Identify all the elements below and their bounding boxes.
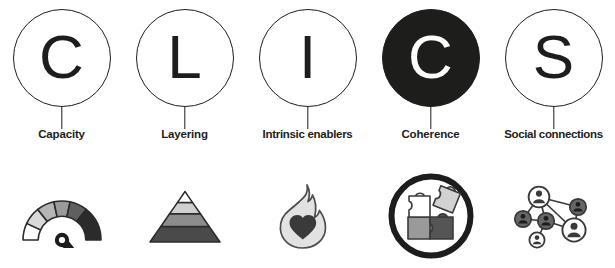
connector-line xyxy=(307,107,308,129)
clics-framework-diagram: C Capacity xyxy=(0,0,615,268)
caption-social-connections: Social connections xyxy=(492,128,615,140)
caption-capacity: Capacity xyxy=(0,128,123,140)
letter-badge-l: L xyxy=(136,9,234,107)
flame-heart-icon xyxy=(258,170,358,262)
letter-glyph: I xyxy=(299,26,316,88)
clics-column-social-connections: S Social connections xyxy=(492,0,615,268)
person-node xyxy=(569,199,585,215)
connector-line xyxy=(553,107,554,129)
letter-glyph: L xyxy=(167,26,201,88)
clics-column-intrinsic-enablers: I Intrinsic enablers xyxy=(246,0,369,268)
network-people-icon xyxy=(504,170,604,262)
pyramid-icon xyxy=(135,170,235,262)
letter-badge-c2: C xyxy=(382,9,480,107)
person-node xyxy=(562,218,585,241)
puzzle-pieces-icon xyxy=(381,170,481,262)
letter-badge-c1: C xyxy=(13,9,111,107)
caption-layering: Layering xyxy=(123,128,246,140)
letter-glyph: C xyxy=(39,26,84,88)
connector-line xyxy=(61,107,62,129)
connector-line xyxy=(430,107,431,129)
gauge-icon xyxy=(12,170,112,262)
letter-glyph: S xyxy=(533,26,574,88)
clics-column-coherence: C Coherence xyxy=(369,0,492,268)
connector-line xyxy=(184,107,185,129)
letter-badge-s: S xyxy=(505,9,603,107)
clics-column-layering: L Layering xyxy=(123,0,246,268)
caption-intrinsic-enablers: Intrinsic enablers xyxy=(246,128,369,140)
person-node xyxy=(514,211,530,227)
letter-glyph: C xyxy=(408,26,453,88)
letter-badge-i: I xyxy=(259,9,357,107)
person-node xyxy=(528,187,549,208)
person-node xyxy=(537,213,553,229)
clics-column-capacity: C Capacity xyxy=(0,0,123,268)
caption-coherence: Coherence xyxy=(369,128,492,140)
person-node xyxy=(529,232,544,247)
